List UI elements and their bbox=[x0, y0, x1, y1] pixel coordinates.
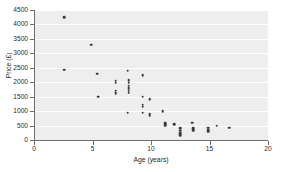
y-tick-label: 3500 bbox=[0, 36, 28, 43]
data-point bbox=[126, 69, 129, 72]
data-point bbox=[149, 98, 152, 101]
x-axis-label: Age (years) bbox=[34, 157, 268, 164]
data-point bbox=[207, 130, 210, 133]
y-tick-mark bbox=[30, 111, 34, 112]
data-point bbox=[191, 121, 194, 124]
scatter-chart: 050010001500200025003000350040004500 051… bbox=[0, 0, 283, 172]
y-tick-label: 2000 bbox=[0, 79, 28, 86]
y-axis-line bbox=[34, 10, 35, 140]
y-tick-mark bbox=[30, 126, 34, 127]
y-tick-label: 4000 bbox=[0, 21, 28, 28]
data-point bbox=[63, 68, 66, 71]
y-tick-label: 0 bbox=[0, 137, 28, 144]
y-tick-label: 1000 bbox=[0, 108, 28, 115]
data-point bbox=[63, 16, 66, 19]
data-point bbox=[149, 114, 152, 117]
x-tick-label: 10 bbox=[147, 146, 154, 153]
data-points-layer bbox=[34, 10, 268, 140]
x-tick-label: 15 bbox=[206, 146, 213, 153]
data-point bbox=[142, 74, 145, 77]
data-point bbox=[179, 134, 182, 137]
data-point bbox=[96, 72, 99, 75]
data-point bbox=[142, 95, 145, 98]
y-tick-mark bbox=[30, 68, 34, 69]
y-tick-label: 4500 bbox=[0, 7, 28, 14]
y-tick-mark bbox=[30, 10, 34, 11]
y-tick-mark bbox=[30, 39, 34, 40]
data-point bbox=[192, 129, 195, 132]
y-tick-label: 1500 bbox=[0, 93, 28, 100]
data-point bbox=[115, 92, 118, 95]
data-point bbox=[142, 111, 145, 114]
y-tick-mark bbox=[30, 82, 34, 83]
y-tick-mark bbox=[30, 24, 34, 25]
data-point bbox=[126, 111, 129, 114]
data-point bbox=[90, 43, 93, 46]
data-point bbox=[161, 110, 164, 113]
data-point bbox=[115, 81, 118, 84]
data-point bbox=[127, 91, 130, 94]
y-axis-label: Price (£) bbox=[6, 37, 13, 93]
x-tick-label: 0 bbox=[32, 146, 36, 153]
y-tick-label: 500 bbox=[0, 122, 28, 129]
x-tick-label: 20 bbox=[264, 146, 271, 153]
data-point bbox=[142, 105, 145, 108]
data-point bbox=[97, 95, 100, 98]
data-point bbox=[228, 127, 231, 130]
data-point bbox=[164, 124, 167, 127]
x-tick-label: 5 bbox=[91, 146, 95, 153]
data-point bbox=[215, 124, 218, 127]
data-point bbox=[173, 123, 176, 126]
y-tick-mark bbox=[30, 97, 34, 98]
y-tick-mark bbox=[30, 53, 34, 54]
plot-area bbox=[34, 10, 268, 140]
